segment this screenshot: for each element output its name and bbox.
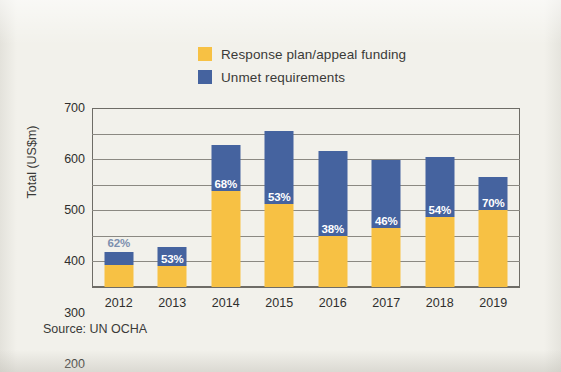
bar-group-2018[interactable]: 54%2018 <box>413 108 467 287</box>
bar-segment-unmet[interactable]: 53% <box>265 131 294 204</box>
bar-percent-label-2014: 68% <box>211 178 240 190</box>
bar-segment-funded[interactable] <box>158 266 187 287</box>
source-note: Source: UN OCHA <box>43 322 147 336</box>
chart-legend: Response plan/appeal funding Unmet requi… <box>198 44 406 90</box>
gridline: 0 <box>92 287 520 288</box>
bar-group-2019[interactable]: 70%2019 <box>467 108 521 287</box>
bar-segment-funded[interactable] <box>265 204 294 287</box>
y-axis-tick-label: 400 <box>64 254 85 268</box>
bar-group-2012[interactable]: 62%2012 <box>92 108 146 287</box>
bar-segment-funded[interactable] <box>425 217 454 287</box>
bar-segment-funded[interactable] <box>318 236 347 287</box>
bar-stack[interactable]: 46% <box>372 160 401 287</box>
bar-percent-label-2019: 70% <box>479 197 508 209</box>
legend-label-funded: Response plan/appeal funding <box>221 47 406 62</box>
y-axis-tick-label: 600 <box>64 152 85 166</box>
y-axis-tick-label: 500 <box>64 203 85 217</box>
x-axis-tick-label: 2018 <box>426 296 454 310</box>
bar-segment-funded[interactable] <box>211 191 240 287</box>
x-axis-tick-label: 2016 <box>319 296 347 310</box>
x-axis-tick-label: 2013 <box>158 296 186 310</box>
bar-percent-label-2018: 54% <box>425 204 454 216</box>
bar-group-2017[interactable]: 46%2017 <box>360 108 414 287</box>
bar-stack[interactable]: 53% <box>158 247 187 287</box>
bar-series-group: 62%201253%201368%201453%201538%201646%20… <box>92 108 520 287</box>
bar-segment-unmet[interactable]: 53% <box>158 247 187 266</box>
legend-swatch-funded <box>198 47 212 61</box>
bar-stack[interactable]: 62% <box>104 252 133 287</box>
bar-segment-unmet[interactable]: 46% <box>372 160 401 229</box>
bar-group-2016[interactable]: 38%2016 <box>306 108 360 287</box>
x-axis-tick-label: 2019 <box>479 296 507 310</box>
bar-segment-unmet[interactable]: 54% <box>425 157 454 217</box>
legend-item-response-plan-funding: Response plan/appeal funding <box>198 44 406 64</box>
y-axis-tick-label: 700 <box>64 101 85 115</box>
bar-segment-unmet[interactable]: 70% <box>479 177 508 210</box>
bar-percent-label-2012: 62% <box>108 237 130 249</box>
bar-stack[interactable]: 53% <box>265 131 294 287</box>
x-axis-tick-label: 2017 <box>372 296 400 310</box>
bar-percent-label-2016: 38% <box>318 223 347 235</box>
legend-label-unmet: Unmet requirements <box>221 70 345 85</box>
bar-segment-unmet[interactable]: 68% <box>211 145 240 191</box>
y-axis-title: Total (US$m) <box>25 97 39 227</box>
legend-item-unmet-requirements: Unmet requirements <box>198 67 406 87</box>
bar-group-2013[interactable]: 53%2013 <box>146 108 200 287</box>
bar-group-2015[interactable]: 53%2015 <box>253 108 307 287</box>
y-axis-tick-label: 300 <box>64 306 85 320</box>
bar-segment-funded[interactable] <box>104 265 133 287</box>
bar-stack[interactable]: 70% <box>479 177 508 287</box>
bar-segment-funded[interactable] <box>479 210 508 287</box>
chart-figure: Response plan/appeal funding Unmet requi… <box>0 0 561 372</box>
bar-group-2014[interactable]: 68%2014 <box>199 108 253 287</box>
bar-segment-funded[interactable] <box>372 228 401 287</box>
x-axis-tick-label: 2012 <box>105 296 133 310</box>
bar-segment-unmet[interactable]: 38% <box>318 151 347 235</box>
bar-stack[interactable]: 54% <box>425 157 454 287</box>
bar-stack[interactable]: 68% <box>211 145 240 287</box>
bar-percent-label-2015: 53% <box>265 191 294 203</box>
x-axis-tick-label: 2014 <box>212 296 240 310</box>
legend-swatch-unmet <box>198 70 212 84</box>
bar-percent-label-2017: 46% <box>372 215 401 227</box>
x-axis-tick-label: 2015 <box>265 296 293 310</box>
y-axis-tick-label: 200 <box>64 357 85 371</box>
bar-segment-unmet[interactable] <box>104 252 133 265</box>
plot-area: 0100200300400500600700 62%201253%201368%… <box>92 108 520 287</box>
bar-stack[interactable]: 38% <box>318 151 347 287</box>
bar-percent-label-2013: 53% <box>158 253 187 265</box>
